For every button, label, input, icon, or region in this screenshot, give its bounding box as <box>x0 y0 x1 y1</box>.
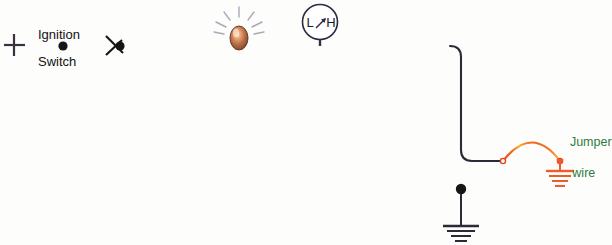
ground-symbol-open <box>443 184 479 241</box>
jumper-label-line1: Jumper <box>570 135 612 149</box>
jumper-label-line2: wire <box>556 166 612 182</box>
ground-lead-wire <box>450 46 501 161</box>
gauge-high-label: H <box>326 15 335 30</box>
jumper-wire[interactable] <box>500 143 563 168</box>
positive-terminal-icon <box>4 34 25 56</box>
ignition-label: Ignition <box>38 28 80 42</box>
gauge-meter: L H <box>303 5 338 47</box>
lamp-bulb-icon <box>214 7 264 50</box>
switch-label: Switch <box>38 55 76 69</box>
jumper-wire-label: Jumper wire <box>556 119 612 213</box>
gauge-low-label: L <box>306 15 313 30</box>
